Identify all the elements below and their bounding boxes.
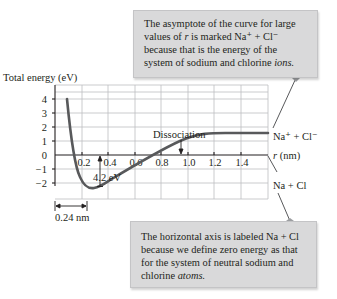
- callout-line: The asymptote of the curve for large: [144, 17, 309, 30]
- ions-label: Na⁺ + Cl⁻: [273, 131, 317, 142]
- equilibrium-label: 0.24 nm: [55, 212, 89, 223]
- y-tick-label: 3: [42, 108, 47, 119]
- y-tick-label: 2: [42, 122, 47, 133]
- dissociation-label: Dissociation: [153, 129, 206, 140]
- top-callout-pointer-tip: [292, 78, 300, 82]
- x-tick-label: 0.8: [155, 157, 168, 168]
- x-tick-label: 0.4: [103, 157, 117, 168]
- x-axis-title: r (nm): [273, 150, 301, 162]
- bottom-callout-pointer: [278, 193, 290, 221]
- y-tick-label: −1: [36, 164, 47, 175]
- callout-line: chlorine atoms.: [141, 269, 308, 282]
- y-tick-label: 0: [42, 150, 47, 161]
- y-tick-label: −2: [36, 178, 47, 189]
- top-callout-pointer: [273, 78, 296, 128]
- well-depth-label: 4.2 eV: [93, 172, 121, 183]
- equilibrium-dimension: [55, 201, 87, 211]
- x-tick-label: 1.0: [182, 157, 195, 168]
- callout-line: system of sodium and chlorine ions.: [144, 56, 309, 69]
- callout-line: The horizontal axis is labeled Na + Cl: [141, 230, 308, 243]
- ions-callout: The asymptote of the curve for large val…: [133, 10, 318, 78]
- y-tick-label: 4: [42, 94, 48, 105]
- callout-line: because we define zero energy as that: [141, 243, 308, 256]
- atoms-callout: The horizontal axis is labeled Na + Cl b…: [130, 221, 317, 288]
- callout-line: values of r is marked Na⁺ + Cl⁻: [144, 30, 309, 43]
- grid: [55, 85, 268, 199]
- x-tick-label: 1.2: [208, 157, 221, 168]
- atoms-label: Na + Cl: [273, 180, 306, 191]
- y-axis-title: Total energy (eV): [3, 72, 78, 84]
- y-tick-labels: 4 3 2 1 0 −1 −2 −3: [36, 94, 48, 203]
- callout-line: for the system of neutral sodium and: [141, 256, 308, 269]
- x-tick-label: 0.2: [77, 157, 90, 168]
- y-tick-label: 1: [42, 136, 47, 147]
- x-tick-label: 1.4: [235, 157, 249, 168]
- callout-line: because that is the energy of the: [144, 43, 309, 56]
- x-tick-labels: 0.2 0.4 0.6 0.8 1.0 1.2 1.4: [77, 157, 249, 168]
